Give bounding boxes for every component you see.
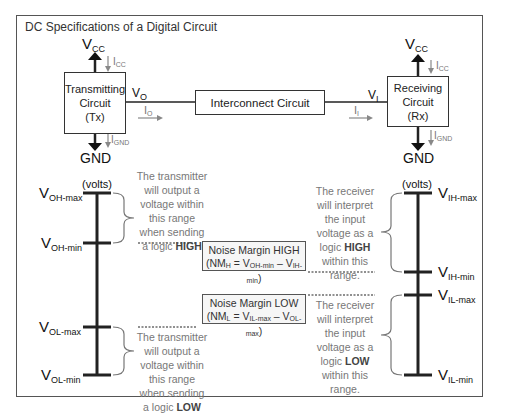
tx-vo-label: VO: [132, 86, 147, 102]
tx-gnd-label: GND: [80, 150, 111, 166]
rx-vi-label: VI: [368, 88, 379, 104]
rx-ii-label: II: [354, 104, 359, 117]
rx-icc-label: ICC: [436, 60, 449, 72]
rx-volts-unit: (volts): [402, 178, 432, 190]
vil-max-label: VIL-max: [438, 286, 476, 305]
transmitting-circuit-box: TransmittingCircuit(Tx): [64, 72, 126, 134]
vol-min-label: VOL-min: [41, 366, 81, 385]
voh-min-label: VOH-min: [41, 234, 82, 253]
diagram-lines: [0, 0, 511, 416]
tx-low-description: The transmitterwill output avoltage with…: [134, 330, 210, 414]
rx-low-description: The receiverwill interpretthe inputvolta…: [308, 298, 382, 396]
interconnect-circuit-box: Interconnect Circuit: [195, 90, 325, 115]
tx-icc-label: ICC: [113, 56, 126, 68]
vol-max-label: VOL-max: [39, 318, 81, 337]
rx-vcc-label: VCC: [405, 35, 428, 54]
tx-volts-unit: (volts): [82, 178, 112, 190]
noise-margin-high-box: Noise Margin HIGH (NMH = VOH-min – VIH-m…: [202, 241, 306, 271]
rx-high-description: The receiverwill interpretthe inputvolta…: [308, 184, 382, 282]
tx-ignd-label: IGND: [111, 134, 129, 146]
tx-io-label: IO: [144, 104, 153, 117]
rx-gnd-label: GND: [403, 150, 434, 166]
vil-min-label: VIL-min: [438, 366, 473, 385]
vih-min-label: VIH-min: [438, 263, 475, 282]
tx-high-description: The transmitterwill output avoltage with…: [134, 169, 210, 253]
noise-margin-low-box: Noise Margin LOW (NML = VIL-max – VOL-ma…: [202, 294, 306, 324]
rx-ignd-label: IGND: [434, 130, 452, 142]
voh-max-label: VOH-max: [39, 184, 83, 203]
receiving-circuit-box: ReceivingCircuit(Rx): [387, 76, 449, 127]
tx-vcc-label: VCC: [82, 35, 105, 54]
vih-max-label: VIH-max: [438, 184, 477, 203]
